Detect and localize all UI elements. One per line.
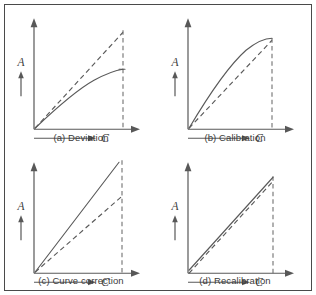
panel-b-dashed-chord: [189, 40, 272, 128]
panel-a-y-label: A: [16, 56, 25, 68]
panel-a: A C (a) Deviation: [4, 4, 158, 148]
panel-b-y-axis-arrow: [185, 18, 192, 27]
panel-a-y-label-arrow-head: [18, 71, 24, 78]
panel-c-y-label-arrow-head: [18, 215, 24, 222]
panel-c-dashed-line: [35, 196, 122, 272]
panel-b-y-label: A: [170, 56, 179, 68]
panel-c-y-label: A: [16, 200, 25, 212]
panel-a-caption: (a) Deviation: [4, 132, 158, 143]
panel-b-plot: A C: [158, 4, 312, 148]
panel-d-y-axis-arrow: [185, 162, 192, 171]
panel-d-y-label: A: [170, 200, 179, 212]
panel-b-y-label-arrow-head: [172, 71, 178, 78]
panel-grid: A C (a) Deviation: [4, 4, 312, 291]
panel-d-caption: (d) Recalibration: [158, 275, 312, 286]
panel-d-dashed-line: [189, 181, 273, 273]
panel-a-y-axis-arrow: [31, 18, 38, 27]
panel-d-y-label-arrow-head: [172, 215, 178, 222]
panel-c-y-axis-arrow: [31, 162, 38, 171]
panel-c-caption: (c) Curve correction: [4, 275, 158, 286]
panel-c-solid-line: [35, 162, 119, 272]
panel-a-dashed-ideal-line: [35, 32, 123, 128]
panel-c: A C (c) Curve correction: [4, 148, 158, 292]
panel-d-plot: A C: [158, 148, 312, 292]
panel-d: A C (d) Recalibration: [158, 148, 312, 292]
panel-b: A C (b) Calibration: [158, 4, 312, 148]
panel-c-plot: A C: [4, 148, 158, 292]
panel-a-plot: A C: [4, 4, 158, 148]
panel-d-solid-line: [189, 177, 273, 270]
figure-container: A C (a) Deviation: [0, 0, 316, 295]
panel-a-solid-curve: [35, 69, 123, 128]
panel-b-caption: (b) Calibration: [158, 132, 312, 143]
